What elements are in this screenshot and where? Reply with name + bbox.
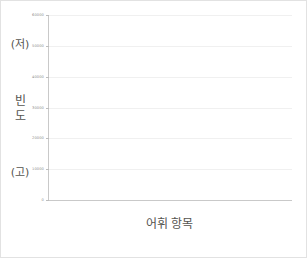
y-tick-label: 60000 — [32, 13, 44, 17]
y-axis-low-marker: (고) — [11, 167, 30, 179]
caption-strip — [1, 248, 307, 258]
y-tick-label: 0 — [42, 198, 44, 202]
chart-figure: (저) 빈 도 (고) 0100002000030000400005000060… — [0, 0, 307, 258]
y-axis-title: 빈 도 — [15, 94, 26, 124]
y-axis-high-marker: (저) — [11, 39, 30, 51]
y-axis-title-char-2: 도 — [15, 109, 26, 124]
plot-area: 0100002000030000400005000060000 — [48, 15, 292, 201]
x-axis-title: 어휘 항목 — [48, 214, 291, 231]
y-axis-title-char-1: 빈 — [15, 94, 26, 109]
y-axis-annotation-group: (저) 빈 도 (고) — [1, 39, 39, 179]
